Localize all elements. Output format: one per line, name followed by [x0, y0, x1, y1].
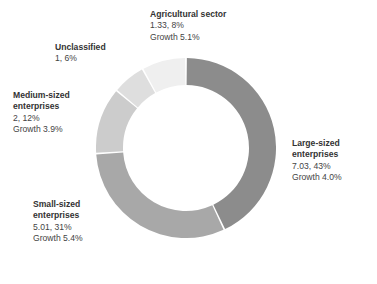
slice-label-value: 1, 6% — [55, 53, 106, 64]
figure-caption — [0, 279, 377, 284]
donut-chart — [96, 58, 276, 238]
slice-label-medium-sized-enterprises: Medium-sized enterprises 2, 12% Growth 3… — [13, 90, 70, 136]
slice-label-title-line2: enterprises — [13, 101, 70, 112]
slice-label-growth: Growth 3.9% — [13, 124, 70, 135]
slice-label-title: Agricultural sector — [150, 9, 226, 20]
slice-label-title-line2: enterprises — [292, 149, 342, 160]
slice-label-growth: Growth 5.4% — [33, 233, 83, 244]
slice-label-title-line1: Small-sized — [33, 199, 83, 210]
slice-label-small-sized-enterprises: Small-sized enterprises 5.01, 31% Growth… — [33, 199, 83, 245]
slice-label-title-line2: enterprises — [33, 210, 83, 221]
slice-label-value: 1.33, 8% — [150, 20, 226, 31]
donut-slice-large-sized-enterprises[interactable] — [187, 58, 276, 229]
slice-label-agricultural-sector: Agricultural sector 1.33, 8% Growth 5.1% — [150, 9, 226, 43]
donut-slice-group — [96, 58, 276, 238]
slice-label-value: 2, 12% — [13, 113, 70, 124]
donut-chart-figure: Agricultural sector 1.33, 8% Growth 5.1%… — [0, 0, 377, 284]
slice-label-growth: Growth 4.0% — [292, 172, 342, 183]
slice-label-title-line1: Medium-sized — [13, 90, 70, 101]
slice-label-unclassified: Unclassified 1, 6% — [55, 42, 106, 65]
donut-slice-small-sized-enterprises[interactable] — [96, 153, 223, 238]
slice-label-large-sized-enterprises: Large-sized enterprises 7.03, 43% Growth… — [292, 138, 342, 184]
donut-svg — [96, 58, 276, 238]
slice-label-value: 5.01, 31% — [33, 222, 83, 233]
slice-label-title: Unclassified — [55, 42, 106, 53]
slice-label-value: 7.03, 43% — [292, 161, 342, 172]
slice-label-growth: Growth 5.1% — [150, 32, 226, 43]
slice-label-title-line1: Large-sized — [292, 138, 342, 149]
